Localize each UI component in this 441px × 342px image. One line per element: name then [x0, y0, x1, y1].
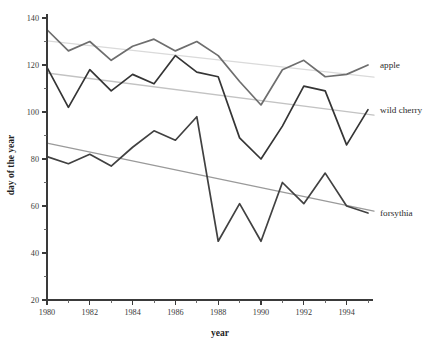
x-tick-label: 1992 — [296, 308, 312, 317]
x-tick-label: 1984 — [124, 308, 140, 317]
y-tick-label: 40 — [31, 249, 39, 258]
x-tick-label: 1994 — [338, 308, 354, 317]
plot-background — [0, 0, 441, 342]
x-tick-label: 1982 — [82, 308, 98, 317]
x-tick-label: 1980 — [39, 308, 55, 317]
x-axis-title: year — [211, 328, 230, 338]
y-tick-label: 140 — [27, 14, 39, 23]
y-tick-label: 120 — [27, 61, 39, 70]
y-tick-label: 100 — [27, 108, 39, 117]
y-tick-label: 20 — [31, 296, 39, 305]
x-tick-label: 1988 — [210, 308, 226, 317]
line-chart: 20406080100120140 1980198219841986198819… — [0, 0, 441, 342]
series-label-wild-cherry: wild cherry — [380, 105, 422, 115]
series-label-forsythia: forsythia — [380, 208, 413, 218]
y-axis-title: day of the year — [6, 134, 16, 195]
x-tick-label: 1986 — [167, 308, 183, 317]
series-label-apple: apple — [380, 60, 400, 70]
chart-figure: 20406080100120140 1980198219841986198819… — [0, 0, 441, 342]
y-tick-label: 60 — [31, 202, 39, 211]
y-tick-label: 80 — [31, 155, 39, 164]
x-tick-label: 1990 — [253, 308, 269, 317]
